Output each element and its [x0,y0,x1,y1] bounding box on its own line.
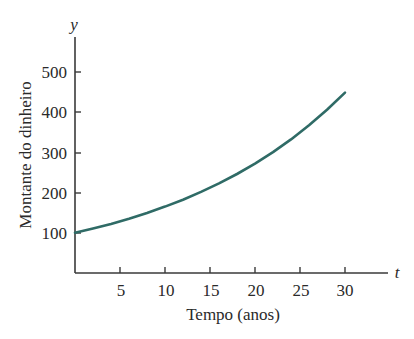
x-tick-label: 20 [248,281,265,300]
y-tick-label: 500 [42,63,68,82]
x-tick-label: 10 [158,281,175,300]
y-axis-variable: y [68,15,78,34]
x-axis-title: Tempo (anos) [186,305,280,324]
y-axis-title: Montante do dinheiro [16,81,35,228]
x-tick-label: 25 [293,281,310,300]
y-tick-label: 100 [42,224,68,243]
y-tick-label: 200 [42,184,68,203]
data-curve [75,93,345,233]
x-tick-label: 30 [337,281,354,300]
x-ticks [120,267,345,273]
y-ticks [75,72,81,233]
y-tick-label: 300 [42,144,68,163]
x-axis-variable: t [395,263,401,282]
x-tick-label: 15 [203,281,220,300]
x-tick-label: 5 [117,281,126,300]
y-tick-label: 400 [42,103,68,122]
chart: 100 200 300 400 500 5 10 15 20 25 30 y t… [0,0,414,339]
